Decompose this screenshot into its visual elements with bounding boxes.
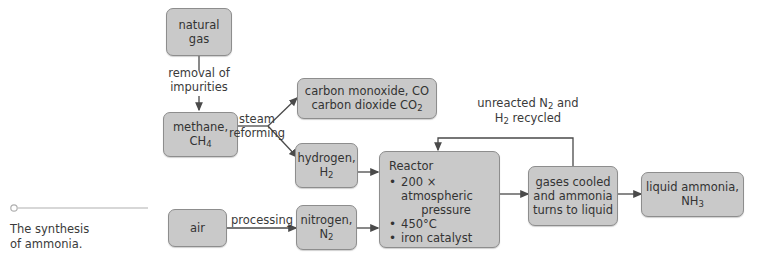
bullet-dot-icon: • — [389, 217, 396, 231]
node-cooling-line-1: gases cooled — [535, 175, 610, 189]
node-reactor-bullet-1-continuation: pressure — [401, 203, 491, 217]
node-reactor-bullet-1: • 200 × atmospheric pressure — [389, 175, 491, 217]
node-cooling[interactable]: gases cooled and ammonia turns to liquid — [528, 166, 618, 226]
edge-label-recycle: unreacted N2 and H2 recycled — [438, 96, 618, 126]
node-reactor-bullet-2: • 450°C — [389, 217, 491, 231]
edge-label-steam-reforming: steam reforming — [226, 112, 288, 140]
bullet-dot-icon: • — [389, 231, 396, 245]
node-reactor-bullet-3-text: iron catalyst — [401, 231, 491, 245]
bullet-dot-icon: • — [389, 175, 396, 189]
node-air[interactable]: air — [168, 209, 227, 247]
edge-label-processing: processing — [227, 213, 297, 227]
edge-label-recycle-line-2: H2 recycled — [438, 111, 618, 126]
figure-caption-line-2: of ammonia. — [10, 237, 140, 252]
node-hydrogen-line-1: hydrogen, — [297, 151, 355, 165]
node-reactor-bullet-1-text: 200 × atmospheric — [401, 175, 473, 203]
edge-label-steam-line-1: steam — [226, 112, 288, 126]
node-natural-gas-line-1: natural — [178, 18, 219, 32]
node-carbon-oxides-line-1: carbon monoxide, CO — [305, 84, 429, 98]
node-reactor[interactable]: Reactor • 200 × atmospheric pressure • 4… — [379, 151, 500, 248]
node-methane-line-2: CH4 — [189, 134, 211, 149]
ammonia-synthesis-flowchart: natural gas removal of impurities methan… — [0, 0, 759, 263]
node-carbon-oxides[interactable]: carbon monoxide, CO carbon dioxide CO2 — [297, 78, 437, 119]
edge-label-recycle-line-1: unreacted N2 and — [438, 96, 618, 111]
node-reactor-bullet-2-text: 450°C — [401, 217, 491, 231]
node-methane-line-1: methane, — [173, 120, 228, 134]
node-liquid-ammonia-line-2: NH3 — [681, 194, 704, 209]
caption-rule-group — [11, 205, 148, 211]
node-nitrogen[interactable]: nitrogen, N2 — [296, 205, 357, 250]
node-cooling-line-3: turns to liquid — [533, 203, 613, 217]
node-natural-gas[interactable]: natural gas — [166, 8, 232, 56]
node-nitrogen-line-2: N2 — [319, 227, 333, 242]
node-liquid-ammonia-line-1: liquid ammonia, — [646, 180, 739, 194]
node-cooling-line-2: and ammonia — [533, 189, 612, 203]
node-reactor-title: Reactor — [389, 159, 491, 173]
node-natural-gas-line-2: gas — [189, 32, 209, 46]
node-carbon-oxides-line-2: carbon dioxide CO2 — [311, 98, 422, 113]
figure-caption-line-1: The synthesis — [10, 222, 140, 237]
edge-label-removal-of-impurities: removal of impurities — [156, 66, 242, 94]
edge-label-removal-line-2: impurities — [156, 80, 242, 94]
edge-label-steam-line-2: reforming — [226, 126, 288, 140]
node-hydrogen-line-2: H2 — [319, 165, 333, 180]
edge-label-removal-line-1: removal of — [156, 66, 242, 80]
node-air-line-1: air — [190, 221, 205, 235]
node-liquid-ammonia[interactable]: liquid ammonia, NH3 — [641, 172, 744, 217]
node-reactor-bullet-3: • iron catalyst — [389, 231, 491, 245]
node-hydrogen[interactable]: hydrogen, H2 — [295, 143, 358, 188]
node-nitrogen-line-1: nitrogen, — [301, 213, 353, 227]
edge-label-processing-line-1: processing — [227, 213, 297, 227]
caption-rule-dot — [11, 205, 17, 211]
figure-caption: The synthesis of ammonia. — [10, 222, 140, 252]
